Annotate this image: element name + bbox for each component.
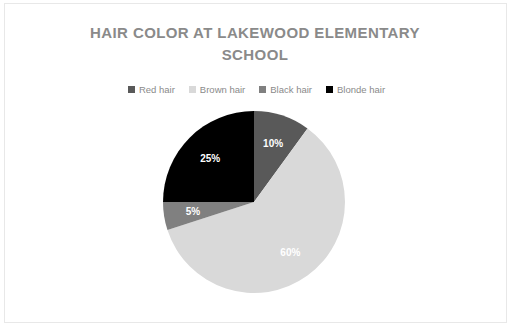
legend-item-label: Red hair xyxy=(139,84,175,95)
legend-item-black-hair[interactable]: Black hair xyxy=(259,84,312,95)
legend-item-label: Black hair xyxy=(270,84,312,95)
pie-slice[interactable] xyxy=(167,128,345,293)
legend-item-blonde-hair[interactable]: Blonde hair xyxy=(326,84,385,95)
legend-item-label: Brown hair xyxy=(200,84,245,95)
chart-panel: HAIR COLOR AT LAKEWOOD ELEMENTARY SCHOOL… xyxy=(4,3,507,323)
pie-slice-label: 25% xyxy=(200,153,220,164)
legend-swatch-icon xyxy=(128,86,135,93)
legend-item-red-hair[interactable]: Red hair xyxy=(128,84,175,95)
pie-slice-label: 10% xyxy=(263,138,283,149)
page-title: HAIR COLOR AT LAKEWOOD ELEMENTARY SCHOOL xyxy=(55,22,455,66)
pie-slice[interactable] xyxy=(163,202,254,230)
pie-slice-group xyxy=(163,111,345,293)
legend-swatch-icon xyxy=(259,86,266,93)
chart-title-line-2: SCHOOL xyxy=(222,46,289,63)
chart-legend: Red hair Brown hair Black hair Blonde ha… xyxy=(5,84,508,95)
pie-slice[interactable] xyxy=(163,111,254,202)
chart-title-line-1: HAIR COLOR AT LAKEWOOD ELEMENTARY xyxy=(90,24,420,41)
legend-item-brown-hair[interactable]: Brown hair xyxy=(189,84,245,95)
legend-swatch-icon xyxy=(189,86,196,93)
pie-slice[interactable] xyxy=(254,111,307,202)
legend-item-label: Blonde hair xyxy=(337,84,385,95)
pie-label-group: 10%60%5%25% xyxy=(186,138,301,258)
pie-slice-label: 60% xyxy=(280,247,300,258)
pie-slice-label: 5% xyxy=(186,206,201,217)
legend-swatch-icon xyxy=(326,86,333,93)
